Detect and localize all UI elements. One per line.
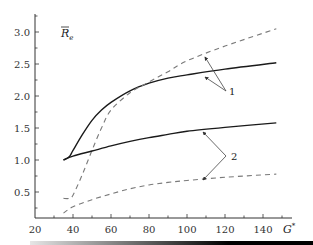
curve-label-1: 1 (229, 86, 235, 97)
callout-1-to-solid (205, 77, 226, 91)
y-tick-label: 3.0 (14, 27, 30, 38)
x-axis-title: G* (283, 222, 296, 236)
callout-1-to-dashed (205, 57, 226, 91)
curve-2-solid (64, 123, 277, 160)
curves (64, 29, 277, 213)
x-tick-label: 120 (215, 224, 234, 235)
x-tick-label: 140 (253, 224, 272, 235)
x-tick-label: 100 (177, 224, 196, 235)
curve-label-2: 2 (231, 151, 237, 162)
curve-2-dashed (64, 174, 277, 213)
x-tick-label: 40 (67, 224, 80, 235)
y-tick-label: 0.5 (14, 187, 30, 198)
chart: 0.51.01.52.02.53.020406080100120140G*Re … (0, 0, 313, 245)
bottom-divider (30, 241, 313, 245)
y-tick-label: 1.5 (14, 123, 30, 134)
x-tick-label: 80 (143, 224, 156, 235)
curve-1-solid (64, 63, 277, 160)
x-tick-label: 20 (29, 224, 42, 235)
y-axis-title: Re (60, 27, 73, 42)
y-tick-label: 2.5 (14, 59, 30, 70)
y-tick-label: 1.0 (14, 155, 30, 166)
callout-2-to-dashed (203, 156, 226, 180)
x-tick-label: 60 (105, 224, 118, 235)
annotations: 12 (203, 57, 237, 180)
callout-2-to-solid (203, 132, 226, 156)
curve-1-dashed (64, 29, 277, 199)
y-tick-label: 2.0 (14, 91, 30, 102)
